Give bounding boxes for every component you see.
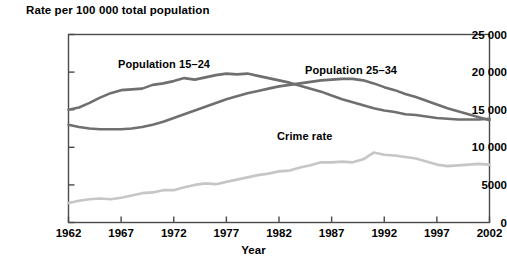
series-label-crime-rate: Crime rate bbox=[277, 130, 332, 142]
x-tick-label: 1997 bbox=[424, 227, 450, 239]
series-line-population-15-24 bbox=[69, 74, 490, 120]
y-tick-label: 5000 bbox=[449, 179, 507, 191]
series-line-crime-rate bbox=[69, 153, 490, 203]
y-tick-label: 25 000 bbox=[449, 29, 507, 41]
x-tick-label: 1977 bbox=[214, 227, 240, 239]
x-tick-label: 1987 bbox=[319, 227, 345, 239]
series-label-population-25-34: Population 25–34 bbox=[305, 64, 397, 76]
x-axis-tick-marks bbox=[69, 217, 490, 223]
x-tick-label: 1967 bbox=[108, 227, 134, 239]
x-tick-label: 1992 bbox=[371, 227, 397, 239]
y-tick-label: 10 000 bbox=[449, 141, 507, 153]
plot-area bbox=[0, 0, 507, 263]
crime-rate-population-line-chart: Rate per 100 000 total population 050001… bbox=[0, 0, 507, 263]
y-tick-label: 15 000 bbox=[449, 104, 507, 116]
x-tick-label: 2002 bbox=[477, 227, 503, 239]
y-axis-tick-marks bbox=[69, 35, 75, 223]
y-tick-label: 20 000 bbox=[449, 66, 507, 78]
series-line-population-25-34 bbox=[69, 79, 490, 129]
x-tick-label: 1982 bbox=[266, 227, 292, 239]
series-label-population-15-24: Population 15–24 bbox=[118, 58, 210, 70]
x-axis-title: Year bbox=[0, 244, 507, 256]
x-tick-label: 1972 bbox=[161, 227, 187, 239]
x-tick-label: 1962 bbox=[56, 227, 82, 239]
